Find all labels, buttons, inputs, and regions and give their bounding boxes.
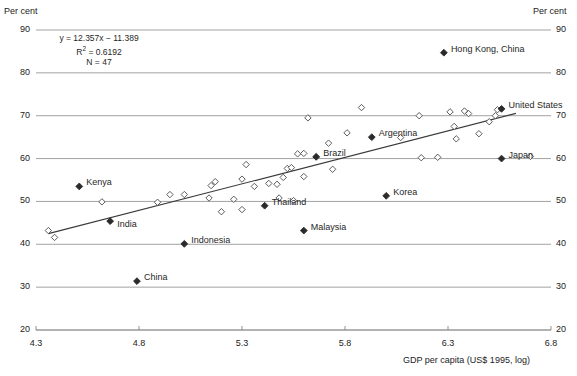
chart-container: Per cent Per cent GDP per capita (US$ 19… <box>0 0 577 376</box>
point-label: Japan <box>509 150 534 160</box>
point-label: India <box>117 219 137 229</box>
data-point <box>418 155 424 161</box>
point-label: Kenya <box>86 177 112 187</box>
y-tick-label-right: 90 <box>556 24 577 34</box>
data-point <box>206 195 212 201</box>
y-tick-label-left: 70 <box>8 110 30 120</box>
x-tick-label: 4.3 <box>21 338 51 348</box>
regression-trendline <box>48 113 516 233</box>
point-label: Malaysia <box>311 222 347 232</box>
x-tick-label: 6.8 <box>536 338 566 348</box>
data-point <box>301 173 307 179</box>
trendline-group <box>48 113 516 233</box>
plot-area <box>0 0 577 376</box>
data-point <box>476 131 482 137</box>
data-point <box>435 154 441 160</box>
x-tick-label: 4.8 <box>124 338 154 348</box>
data-point <box>167 191 173 197</box>
y-tick-label-left: 30 <box>8 281 30 291</box>
data-point-highlighted <box>313 153 320 160</box>
data-point-highlighted <box>440 49 447 56</box>
data-point <box>51 234 57 240</box>
y-tick-label-right: 40 <box>556 238 577 248</box>
point-label: Indonesia <box>191 235 230 245</box>
x-tick-label: 5.3 <box>227 338 257 348</box>
data-point <box>329 166 335 172</box>
y-tick-label-right: 80 <box>556 67 577 77</box>
data-point <box>266 180 272 186</box>
y-tick-label-right: 60 <box>556 153 577 163</box>
data-point <box>294 151 300 157</box>
x-tick-label: 6.3 <box>433 338 463 348</box>
data-point <box>453 136 459 142</box>
data-point <box>243 161 249 167</box>
y-tick-label-right: 20 <box>556 324 577 334</box>
data-point <box>447 109 453 115</box>
y-tick-label-left: 50 <box>8 195 30 205</box>
y-tick-label-left: 80 <box>8 67 30 77</box>
y-tick-label-right: 50 <box>556 195 577 205</box>
point-label: China <box>144 272 168 282</box>
data-point <box>344 130 350 136</box>
data-point <box>358 104 364 110</box>
data-point <box>416 113 422 119</box>
data-point <box>181 191 187 197</box>
data-point-highlighted <box>261 202 268 209</box>
point-label: Korea <box>393 187 417 197</box>
point-label: Hong Kong, China <box>451 44 525 54</box>
y-tick-label-right: 30 <box>556 281 577 291</box>
y-tick-label-left: 90 <box>8 24 30 34</box>
data-point <box>325 140 331 146</box>
data-point <box>99 199 105 205</box>
point-label: Brazil <box>323 148 346 158</box>
x-tick-label: 5.8 <box>330 338 360 348</box>
y-tick-label-right: 70 <box>556 110 577 120</box>
data-point-highlighted <box>134 278 141 285</box>
y-tick-label-left: 60 <box>8 153 30 163</box>
data-point-highlighted <box>181 240 188 247</box>
tickmarks-group <box>36 326 551 330</box>
point-label: United States <box>509 100 563 110</box>
data-point <box>274 181 280 187</box>
data-point-highlighted <box>498 155 505 162</box>
data-point <box>239 206 245 212</box>
data-point <box>280 174 286 180</box>
y-tick-label-left: 20 <box>8 324 30 334</box>
point-label: Argentina <box>379 128 418 138</box>
data-point <box>251 183 257 189</box>
data-point-highlighted <box>76 183 83 190</box>
gridlines-group <box>36 30 551 330</box>
data-points-group <box>45 49 533 284</box>
data-point-highlighted <box>368 134 375 141</box>
point-label: Thailand <box>272 197 307 207</box>
data-point <box>301 150 307 156</box>
y-tick-label-left: 40 <box>8 238 30 248</box>
data-point <box>218 209 224 215</box>
data-point-highlighted <box>383 192 390 199</box>
data-point <box>239 176 245 182</box>
data-point-highlighted <box>300 227 307 234</box>
